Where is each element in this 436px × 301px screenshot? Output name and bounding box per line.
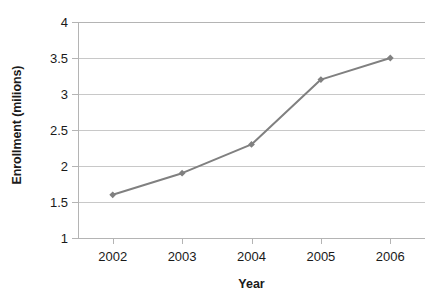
y-axis-tickmark — [72, 202, 79, 203]
x-axis-tickmark — [390, 238, 391, 244]
data-point-marker — [387, 55, 394, 62]
line-chart: Enrollment (milions) 11.522.533.54 20022… — [0, 0, 436, 301]
x-axis-tick-label: 2005 — [306, 249, 335, 264]
data-point-marker — [179, 170, 186, 177]
x-axis-tick-label: 2006 — [376, 249, 405, 264]
x-axis-tick-label: 2004 — [237, 249, 266, 264]
x-axis-tick-label: 2002 — [98, 249, 127, 264]
y-axis-tickmark — [72, 130, 79, 131]
x-axis-tickmark — [182, 238, 183, 244]
x-axis-title: Year — [78, 277, 425, 291]
y-axis-tickmark — [72, 166, 79, 167]
y-axis-tickmark — [72, 58, 79, 59]
y-axis-tickmark — [72, 238, 79, 239]
data-point-marker — [109, 191, 116, 198]
series-line — [113, 58, 391, 195]
y-axis-tickmark — [72, 94, 79, 95]
x-axis-tick-label: 2003 — [168, 249, 197, 264]
x-axis-tickmark — [252, 238, 253, 244]
y-axis-tickmark — [72, 22, 79, 23]
x-axis-tickmark — [321, 238, 322, 244]
x-axis-tick-labels: 20022003200420052006 — [0, 249, 436, 271]
x-axis-tickmark — [113, 238, 114, 244]
